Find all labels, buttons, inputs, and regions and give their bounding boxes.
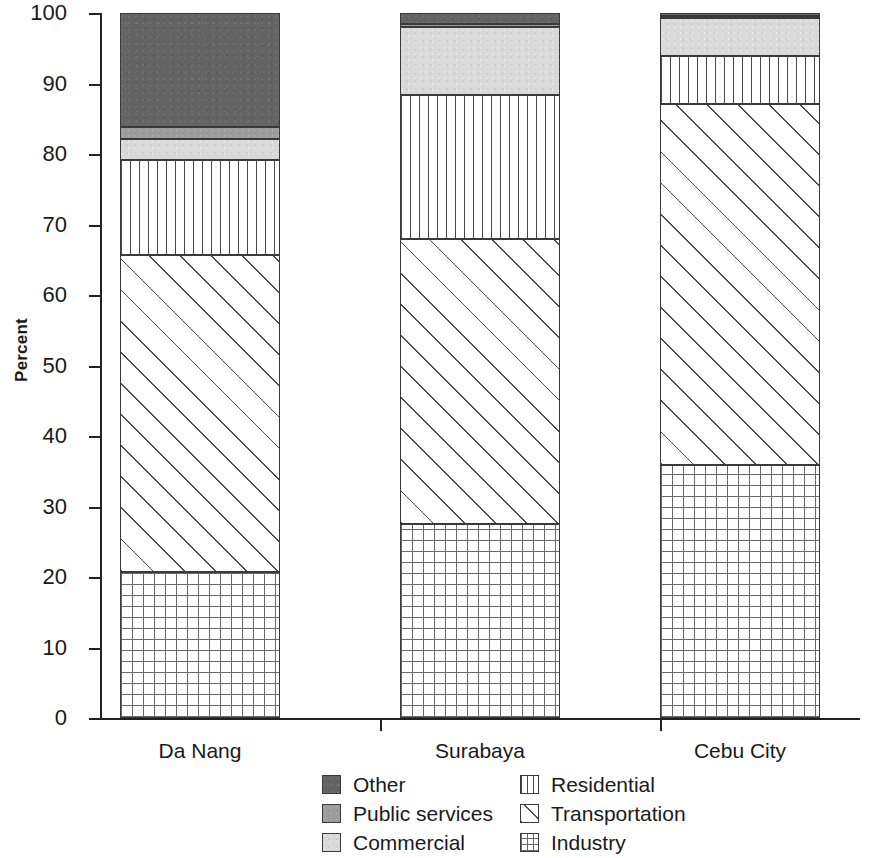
bar-segment-industry[interactable] xyxy=(120,572,280,718)
y-tick-label: 0 xyxy=(0,707,67,729)
bar-segment-public-services[interactable] xyxy=(400,24,560,27)
bar-segment-transportation[interactable] xyxy=(400,239,560,525)
legend-column-right: ResidentialTransportationIndustry xyxy=(520,770,750,857)
bar-segment-commercial[interactable] xyxy=(120,139,280,160)
y-tick-label: 90 xyxy=(0,73,67,95)
bar-segment-transportation[interactable] xyxy=(120,255,280,572)
y-tick-mark xyxy=(89,154,100,156)
bar-segment-public-services[interactable] xyxy=(660,16,820,18)
x-tick-label-da-nang: Da Nang xyxy=(80,739,320,763)
legend-item-residential[interactable]: Residential xyxy=(520,770,750,799)
commercial-swatch xyxy=(322,833,341,852)
bar-surabaya[interactable] xyxy=(400,13,560,718)
bar-segment-public-services[interactable] xyxy=(120,127,280,139)
x-tick-mark xyxy=(660,719,662,731)
bar-segment-residential[interactable] xyxy=(400,95,560,239)
legend-label: Industry xyxy=(551,832,626,853)
stacked-bar-chart: Percent 1009080706050403020100 Da NangSu… xyxy=(0,0,881,858)
y-tick-mark xyxy=(89,295,100,297)
y-tick-mark xyxy=(89,718,100,720)
legend-label: Commercial xyxy=(353,832,465,853)
legend-column-left: OtherPublic servicesCommercial xyxy=(322,770,522,857)
other-swatch xyxy=(322,775,341,794)
legend-item-industry[interactable]: Industry xyxy=(520,828,750,857)
bar-da-nang[interactable] xyxy=(120,13,280,718)
bar-cebu-city[interactable] xyxy=(660,13,820,718)
y-axis-title: Percent xyxy=(12,300,32,400)
y-tick-label: 40 xyxy=(0,425,67,447)
y-tick-label: 20 xyxy=(0,566,67,588)
bar-segment-other[interactable] xyxy=(120,13,280,127)
legend-label: Residential xyxy=(551,774,655,795)
x-tick-mark xyxy=(380,719,382,731)
y-tick-label: 50 xyxy=(0,355,67,377)
industry-swatch xyxy=(520,833,539,852)
bar-segment-other[interactable] xyxy=(660,13,820,16)
legend-label: Transportation xyxy=(551,803,686,824)
legend-item-public-services[interactable]: Public services xyxy=(322,799,522,828)
y-tick-label: 80 xyxy=(0,143,67,165)
y-tick-label: 10 xyxy=(0,637,67,659)
y-tick-mark xyxy=(89,577,100,579)
y-tick-mark xyxy=(89,436,100,438)
bar-segment-industry[interactable] xyxy=(400,524,560,718)
bar-segment-commercial[interactable] xyxy=(660,18,820,56)
y-tick-label: 100 xyxy=(0,2,67,24)
bar-segment-commercial[interactable] xyxy=(400,27,560,95)
bar-segment-residential[interactable] xyxy=(120,160,280,254)
transportation-swatch xyxy=(520,804,539,823)
bar-segment-industry[interactable] xyxy=(660,465,820,718)
y-tick-mark xyxy=(89,507,100,509)
x-axis-line xyxy=(100,718,860,720)
legend-item-transportation[interactable]: Transportation xyxy=(520,799,750,828)
legend-label: Other xyxy=(353,774,406,795)
y-tick-label: 30 xyxy=(0,496,67,518)
x-tick-label-surabaya: Surabaya xyxy=(360,739,600,763)
bar-segment-other[interactable] xyxy=(400,13,560,24)
legend-label: Public services xyxy=(353,803,493,824)
residential-swatch xyxy=(520,775,539,794)
y-tick-mark xyxy=(89,13,100,15)
y-tick-mark xyxy=(89,648,100,650)
bar-segment-transportation[interactable] xyxy=(660,104,820,465)
y-tick-label: 60 xyxy=(0,284,67,306)
y-tick-mark xyxy=(89,84,100,86)
legend-item-other[interactable]: Other xyxy=(322,770,522,799)
x-tick-label-cebu-city: Cebu City xyxy=(620,739,860,763)
public-services-swatch xyxy=(322,804,341,823)
y-tick-label: 70 xyxy=(0,214,67,236)
y-axis-line xyxy=(100,13,102,719)
y-tick-mark xyxy=(89,366,100,368)
legend-item-commercial[interactable]: Commercial xyxy=(322,828,522,857)
y-tick-mark xyxy=(89,225,100,227)
bar-segment-residential[interactable] xyxy=(660,56,820,104)
plot-area: 1009080706050403020100 Da NangSurabayaCe… xyxy=(100,13,860,718)
